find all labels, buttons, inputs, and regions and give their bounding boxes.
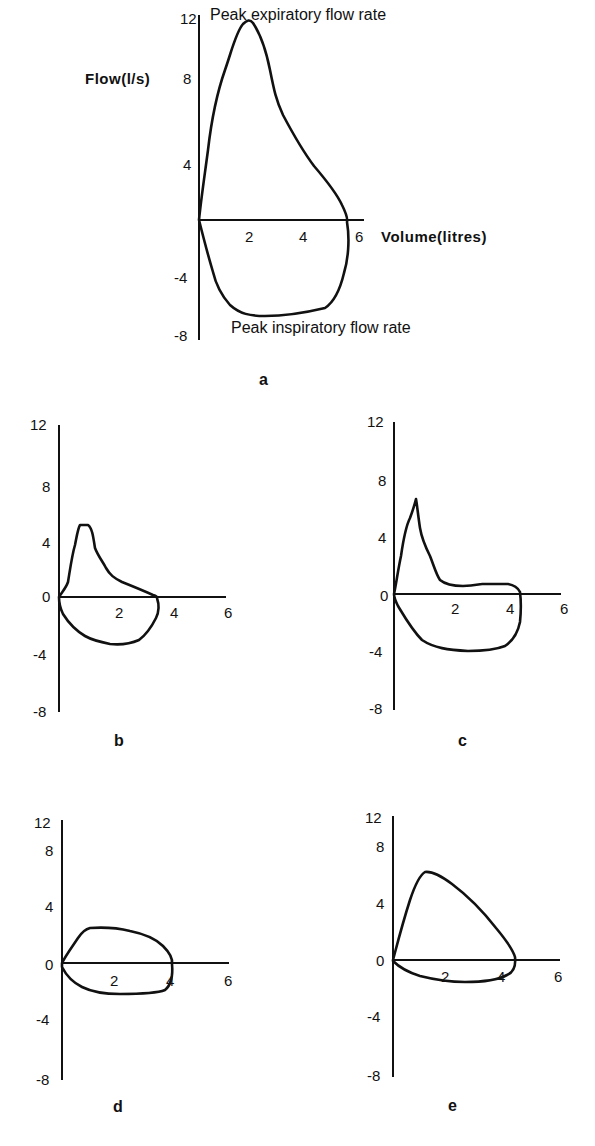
x-tick-6: 6 [355, 228, 363, 245]
y-tick-neg8: -8 [367, 1067, 380, 1084]
y-tick-4: 4 [376, 895, 384, 912]
panel-a: 12 8 4 -4 -8 2 4 6 Volume(litres) Flow(l… [85, 6, 487, 388]
y-tick-0: 0 [42, 588, 50, 605]
y-tick-0: 0 [380, 587, 388, 604]
panel-b: 12 8 4 0 -4 -8 2 4 6 b [30, 416, 232, 749]
y-tick-neg4: -4 [367, 1008, 380, 1025]
peak-expiratory-label: Peak expiratory flow rate [210, 6, 386, 23]
y-tick-8: 8 [183, 70, 191, 87]
panel-d: 12 8 4 0 -4 -8 2 4 6 d [34, 814, 232, 1115]
x-tick-6: 6 [224, 972, 232, 989]
x-tick-4: 4 [170, 604, 178, 621]
x-tick-6: 6 [560, 600, 568, 617]
y-tick-neg4: -4 [36, 1011, 49, 1028]
y-tick-12: 12 [34, 814, 51, 831]
panel-label-b: b [114, 732, 124, 749]
x-tick-6: 6 [554, 968, 562, 985]
y-tick-12: 12 [367, 413, 384, 430]
y-tick-12: 12 [30, 416, 47, 433]
y-tick-8: 8 [45, 842, 53, 859]
panel-label-c: c [458, 732, 467, 749]
x-tick-2: 2 [110, 972, 118, 989]
x-tick-2: 2 [451, 600, 459, 617]
x-tick-6: 6 [224, 604, 232, 621]
y-tick-neg8: -8 [369, 700, 382, 717]
y-tick-12: 12 [180, 10, 197, 27]
loop-b [59, 525, 159, 644]
y-tick-8: 8 [376, 838, 384, 855]
y-tick-0: 0 [376, 952, 384, 969]
y-tick-neg8: -8 [174, 327, 187, 344]
panel-label-a: a [259, 371, 268, 388]
panel-c: 12 8 4 0 -4 -8 2 4 6 c [367, 413, 568, 749]
y-tick-neg4: -4 [33, 646, 46, 663]
y-tick-neg8: -8 [33, 703, 46, 720]
y-tick-neg4: -4 [174, 269, 187, 286]
x-tick-2: 2 [245, 228, 253, 245]
x-tick-4: 4 [299, 228, 307, 245]
y-tick-4: 4 [45, 898, 53, 915]
y-axis-label: Flow(l/s) [85, 70, 150, 87]
x-axis-label: Volume(litres) [381, 228, 487, 245]
loop-a [199, 20, 348, 316]
loop-e [393, 872, 515, 982]
y-tick-8: 8 [42, 478, 50, 495]
y-tick-4: 4 [183, 156, 191, 173]
panel-e: 12 8 4 0 -4 -8 2 4 6 e [365, 809, 562, 1114]
x-tick-2: 2 [115, 604, 123, 621]
y-tick-neg8: -8 [36, 1071, 49, 1088]
flow-volume-figure: 12 8 4 -4 -8 2 4 6 Volume(litres) Flow(l… [0, 0, 595, 1146]
y-tick-12: 12 [365, 809, 382, 826]
panel-label-d: d [113, 1098, 123, 1115]
x-tick-2: 2 [441, 968, 449, 985]
peak-inspiratory-label: Peak inspiratory flow rate [231, 319, 411, 336]
y-tick-neg4: -4 [369, 643, 382, 660]
panel-label-e: e [448, 1097, 457, 1114]
y-tick-4: 4 [378, 529, 386, 546]
y-tick-4: 4 [42, 534, 50, 551]
y-tick-0: 0 [45, 956, 53, 973]
loop-c [394, 499, 521, 651]
x-tick-4: 4 [506, 600, 514, 617]
y-tick-8: 8 [378, 472, 386, 489]
